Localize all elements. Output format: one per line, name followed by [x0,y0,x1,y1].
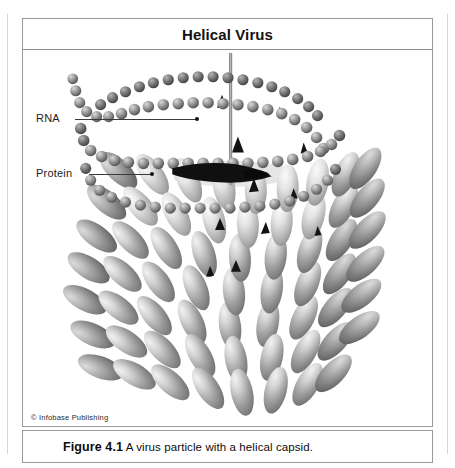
plate-rule-left [7,14,8,454]
figure-caption-text: A virus particle with a helical capsid. [126,441,313,453]
page-title: Helical Virus [182,26,273,43]
illustration-panel: Helical Virus [22,18,433,427]
rna-helix [67,71,345,214]
panel-title-bar: Helical Virus [23,19,432,50]
callout-label-protein: Protein [36,167,72,179]
protein-capsid [58,142,391,417]
leader-dot-protein [150,172,154,176]
leader-line-protein [89,174,151,175]
figure-number: Figure 4.1 [63,440,123,454]
leader-dot-rna [195,117,199,121]
figure-plate: Helical Virus [0,0,455,468]
plate-rule-right [447,14,448,454]
copyright-credit: © Infobase Publishing [31,413,108,422]
callout-label-rna: RNA [36,112,60,124]
figure-caption: Figure 4.1 A virus particle with a helic… [63,440,313,454]
artwork-stage: RNA Protein © Infobase Publishing [23,50,432,427]
helical-virus-illustration [23,50,432,427]
caption-box: Figure 4.1 A virus particle with a helic… [22,430,433,463]
leader-line-rna [75,119,197,120]
